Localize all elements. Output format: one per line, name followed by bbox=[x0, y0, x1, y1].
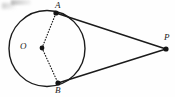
segment-radius-ob bbox=[42, 48, 58, 83]
point-label-a: A bbox=[55, 1, 61, 10]
point-dot-o bbox=[40, 46, 45, 51]
point-label-p: P bbox=[164, 33, 170, 42]
point-label-b: B bbox=[55, 86, 61, 95]
geometry-figure: A B O P bbox=[0, 0, 175, 97]
segment-tangent-bp bbox=[58, 49, 166, 83]
point-label-o: O bbox=[20, 42, 27, 51]
segment-tangent-ap bbox=[56, 13, 166, 49]
point-dot-a bbox=[53, 10, 58, 15]
point-dot-p bbox=[163, 46, 168, 51]
segment-radius-oa bbox=[42, 13, 56, 48]
